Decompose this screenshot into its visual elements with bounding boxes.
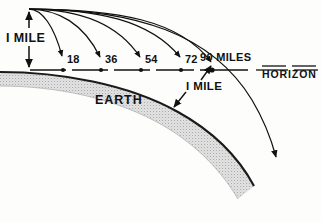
impact-dot-54: [139, 68, 143, 72]
newton-cannonball-figure: I MILE I MILE EARTH HORIZON 90 MILES 18 …: [0, 0, 321, 222]
altitude-right-arrow-down: [174, 92, 186, 107]
trajectory-72: [29, 9, 180, 57]
tick-label-36: 36: [105, 53, 118, 65]
altitude-right-arrow-up: [201, 66, 211, 80]
figure-canvas: [0, 0, 321, 222]
impact-dot-36: [99, 68, 103, 72]
impact-dot-18: [61, 68, 65, 72]
horizon-label: HORIZON: [262, 69, 317, 80]
altitude-right-label: I MILE: [186, 81, 222, 93]
earth-label: EARTH: [95, 94, 143, 107]
tick-label-18: 18: [67, 53, 80, 65]
altitude-left-label: I MILE: [6, 32, 45, 45]
tick-label-72: 72: [185, 53, 198, 65]
impact-dot-72: [179, 68, 183, 72]
tick-label-54: 54: [145, 53, 158, 65]
far-distance-label: 90 MILES: [200, 52, 251, 63]
